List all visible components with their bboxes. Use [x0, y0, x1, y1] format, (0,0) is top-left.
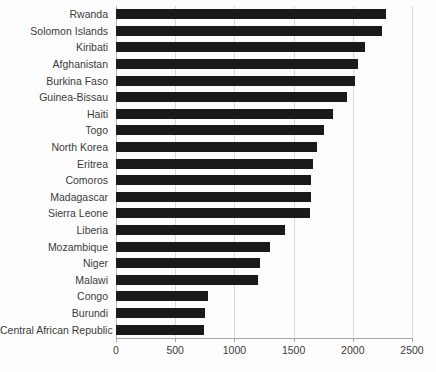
gridline	[412, 6, 413, 338]
bar	[116, 42, 365, 52]
category-label: Kiribati	[0, 39, 112, 55]
bar	[116, 275, 258, 285]
category-label: Central African Republic	[0, 322, 112, 338]
category-label: Burkina Faso	[0, 73, 112, 89]
bar	[116, 258, 260, 268]
category-label: Eritrea	[0, 156, 112, 172]
bar-row	[116, 106, 412, 122]
bar-row	[116, 222, 412, 238]
category-label: Afghanistan	[0, 56, 112, 72]
bar	[116, 175, 311, 185]
bar-row	[116, 156, 412, 172]
bar	[116, 242, 270, 252]
bar-row	[116, 6, 412, 22]
bar	[116, 192, 311, 202]
category-label: Sierra Leone	[0, 205, 112, 221]
category-label: Mozambique	[0, 239, 112, 255]
category-label: Malawi	[0, 272, 112, 288]
bar	[116, 125, 324, 135]
category-label: Haiti	[0, 106, 112, 122]
x-tick-mark	[116, 338, 117, 342]
x-tick-label: 1000	[223, 344, 246, 356]
bar	[116, 142, 317, 152]
bar	[116, 308, 205, 318]
category-label: North Korea	[0, 139, 112, 155]
bar	[116, 76, 355, 86]
x-axis-line	[116, 338, 412, 339]
bar-row	[116, 305, 412, 321]
x-tick-label: 2500	[400, 344, 423, 356]
category-label: Guinea-Bissau	[0, 89, 112, 105]
bar-chart: RwandaSolomon IslandsKiribatiAfghanistan…	[0, 0, 436, 372]
x-tick-label: 2000	[341, 344, 364, 356]
x-tick-mark	[175, 338, 176, 342]
category-label: Congo	[0, 288, 112, 304]
category-axis-labels: RwandaSolomon IslandsKiribatiAfghanistan…	[0, 6, 112, 338]
category-label: Niger	[0, 255, 112, 271]
bar-row	[116, 255, 412, 271]
bar	[116, 291, 208, 301]
x-tick-mark	[234, 338, 235, 342]
bar	[116, 208, 310, 218]
bar	[116, 225, 285, 235]
bar-row	[116, 205, 412, 221]
bar-row	[116, 56, 412, 72]
bar-row	[116, 23, 412, 39]
bar-row	[116, 322, 412, 338]
category-label: Togo	[0, 122, 112, 138]
bar	[116, 109, 333, 119]
bar-row	[116, 172, 412, 188]
x-tick-label: 1500	[282, 344, 305, 356]
x-tick-label: 500	[166, 344, 184, 356]
x-tick-mark	[412, 338, 413, 342]
bar	[116, 159, 313, 169]
category-label: Solomon Islands	[0, 23, 112, 39]
category-label: Burundi	[0, 305, 112, 321]
bar	[116, 9, 386, 19]
category-label: Liberia	[0, 222, 112, 238]
bar-row	[116, 73, 412, 89]
category-label: Rwanda	[0, 6, 112, 22]
category-label: Comoros	[0, 172, 112, 188]
x-tick-label: 0	[113, 344, 119, 356]
bar	[116, 325, 204, 335]
bar-row	[116, 39, 412, 55]
category-label: Madagascar	[0, 189, 112, 205]
plot-area	[116, 6, 412, 338]
bar-row	[116, 239, 412, 255]
bar	[116, 26, 382, 36]
bar-series	[116, 6, 412, 338]
bar-row	[116, 122, 412, 138]
bar-row	[116, 189, 412, 205]
bar-row	[116, 272, 412, 288]
bar	[116, 59, 358, 69]
bar-row	[116, 89, 412, 105]
bar-row	[116, 139, 412, 155]
bar-row	[116, 288, 412, 304]
bar	[116, 92, 347, 102]
x-tick-mark	[294, 338, 295, 342]
x-tick-mark	[353, 338, 354, 342]
